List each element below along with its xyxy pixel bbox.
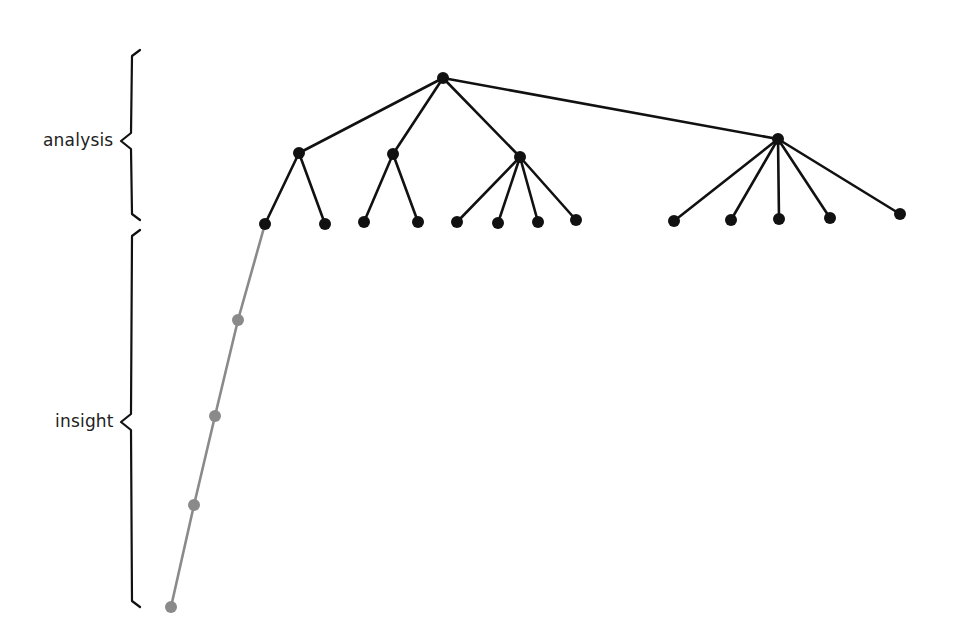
tree-node bbox=[824, 212, 836, 224]
insight-brace bbox=[121, 230, 140, 607]
tree-node bbox=[772, 133, 784, 145]
tree-nodes bbox=[259, 72, 906, 230]
tree-node bbox=[412, 216, 424, 228]
tree-edge bbox=[778, 139, 830, 218]
tree-edge bbox=[778, 139, 779, 219]
tree-node bbox=[668, 215, 680, 227]
tree-node bbox=[259, 218, 271, 230]
tree-node bbox=[725, 214, 737, 226]
tree-root-node bbox=[437, 72, 449, 84]
analysis-label: analysis bbox=[43, 132, 113, 149]
tree-node bbox=[570, 214, 582, 226]
tree-edge bbox=[731, 139, 778, 220]
braces bbox=[121, 50, 140, 607]
insight-step-node bbox=[165, 601, 177, 613]
tree-node bbox=[293, 147, 305, 159]
tree-node bbox=[358, 216, 370, 228]
tree-node bbox=[894, 208, 906, 220]
tree-node bbox=[451, 216, 463, 228]
analysis-brace bbox=[121, 50, 140, 220]
insight-label: insight bbox=[55, 413, 114, 430]
tree-edge bbox=[265, 153, 299, 224]
tree-edges bbox=[265, 78, 900, 224]
tree-edge bbox=[393, 78, 443, 154]
insight-step-node bbox=[209, 410, 221, 422]
tree-node bbox=[492, 217, 504, 229]
tree-node bbox=[387, 148, 399, 160]
insight-step-node bbox=[188, 499, 200, 511]
tree-edge bbox=[299, 153, 325, 224]
tree-node bbox=[514, 151, 526, 163]
insight-path bbox=[165, 224, 265, 613]
tree-edge bbox=[364, 154, 393, 222]
tree-edge bbox=[299, 78, 443, 153]
tree-edge bbox=[393, 154, 418, 222]
tree-edge bbox=[778, 139, 900, 214]
tree-node bbox=[532, 216, 544, 228]
tree-node bbox=[319, 218, 331, 230]
insight-step-node bbox=[232, 314, 244, 326]
tree-edge bbox=[674, 139, 778, 221]
tree-edge bbox=[457, 157, 520, 222]
analysis-insight-diagram bbox=[0, 0, 957, 641]
tree-node bbox=[773, 213, 785, 225]
